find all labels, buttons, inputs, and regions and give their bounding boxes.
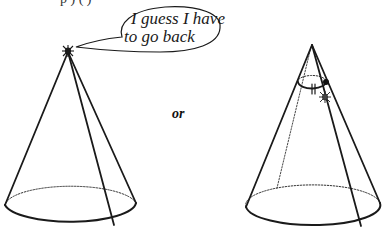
or-connector-label: or bbox=[172, 106, 184, 122]
bug-icon-left bbox=[62, 45, 74, 57]
right-cone-base-back bbox=[246, 185, 380, 207]
speech-bubble-line-2: to go back bbox=[124, 28, 195, 46]
cropped-caption-fragment: p ) ( ) bbox=[60, 0, 92, 7]
right-cone bbox=[246, 45, 381, 226]
right-cone-path-line bbox=[312, 45, 361, 226]
left-cone bbox=[5, 52, 136, 225]
left-cone-base-front bbox=[5, 203, 136, 222]
right-cone-right-edge bbox=[312, 45, 380, 203]
start-point-dot bbox=[323, 79, 329, 85]
right-cone-left-edge bbox=[246, 45, 312, 207]
left-cone-base-back bbox=[5, 186, 136, 205]
cone-figure: p ) ( ) I guess I have to go back or bbox=[0, 0, 385, 230]
bug-icon-right bbox=[319, 91, 331, 103]
left-cone-left-edge bbox=[5, 52, 68, 205]
speech-bubble-line-1: I guess I have bbox=[131, 10, 225, 28]
